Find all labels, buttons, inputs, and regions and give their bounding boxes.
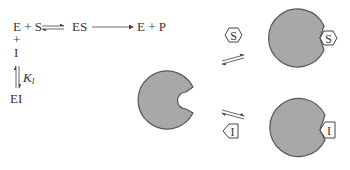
bound-substrate-label: S: [325, 32, 332, 46]
inhibited-complex-label: EI: [10, 91, 22, 106]
inhibition-constant-label: KI: [22, 70, 35, 86]
enzyme-substrate-complex: S: [269, 9, 337, 67]
competitive-inhibition-diagram: E + S ES E + P + I KI EI S I: [0, 0, 350, 170]
products-label: E + P: [137, 19, 166, 34]
substrate-hexagon-icon: S: [225, 28, 242, 43]
inhibitor-pentagon-icon: I: [223, 124, 238, 139]
svg-text:I: I: [231, 125, 235, 139]
enzyme-inhibitor-complex: I: [270, 98, 335, 156]
inhibitor-arrow-shape-icon: [222, 110, 244, 119]
equilibrium-arrow-icon: [42, 26, 64, 29]
svg-text:S: S: [230, 29, 237, 43]
free-enzyme-shape: [138, 71, 193, 129]
inhibitor-equilibrium-arrow-icon: [16, 66, 19, 88]
complex-label: ES: [72, 19, 87, 34]
substrate-equilibrium-arrow-icon: [222, 55, 244, 64]
inhibitor-label: I: [14, 45, 18, 60]
bound-inhibitor-label: I: [327, 124, 331, 138]
